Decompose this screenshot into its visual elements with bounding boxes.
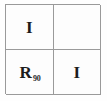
grid-cell-top-right bbox=[54, 5, 101, 50]
operator-matrix-figure: I R90 I bbox=[0, 0, 107, 101]
symbol-subscript-bottom-left: 90 bbox=[33, 75, 41, 83]
operator-grid: I R90 I bbox=[5, 4, 100, 94]
cell-content-top-right bbox=[77, 27, 78, 28]
cell-content-bottom-right: I bbox=[74, 64, 81, 81]
symbol-base-top-left: I bbox=[26, 19, 33, 36]
cell-content-top-left: I bbox=[26, 19, 33, 36]
symbol-base-bottom-left: R bbox=[19, 64, 31, 81]
cell-content-bottom-left: R90 bbox=[19, 64, 39, 81]
grid-cell-bottom-left: R90 bbox=[6, 50, 54, 95]
symbol-base-bottom-right: I bbox=[74, 64, 81, 81]
grid-cell-bottom-right: I bbox=[54, 50, 101, 95]
grid-cell-top-left: I bbox=[6, 5, 54, 50]
